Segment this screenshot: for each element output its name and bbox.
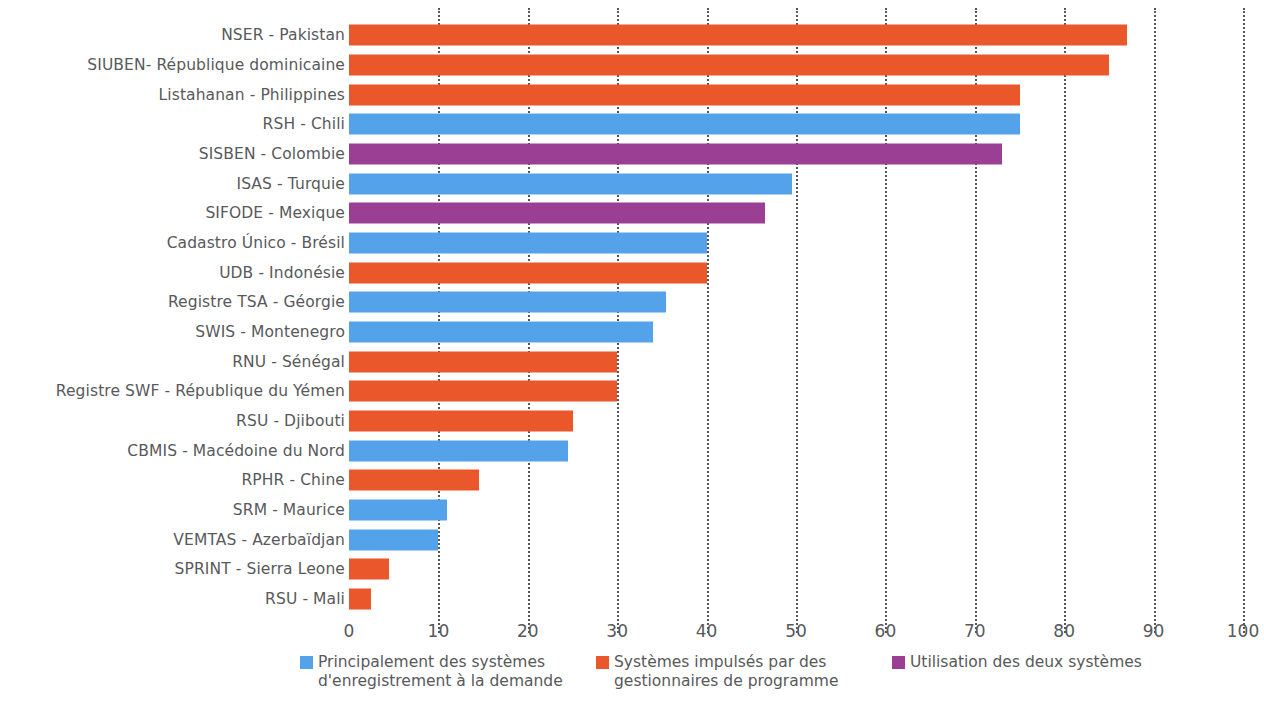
bar-category-label: SIUBEN- République dominicaine xyxy=(87,56,345,74)
bar-row: ISAS - Turquie xyxy=(0,169,1264,199)
x-tick-label: 20 xyxy=(517,621,539,641)
bar xyxy=(349,559,389,580)
legend-swatch-icon xyxy=(300,656,313,669)
legend-label: Principalement des systèmes d'enregistre… xyxy=(318,653,578,691)
bar-category-label: RPHR - Chine xyxy=(241,471,345,489)
legend-swatch-icon xyxy=(596,656,609,669)
bar xyxy=(349,114,1020,135)
bar xyxy=(349,262,707,283)
plot-area: NSER - PakistanSIUBEN- République domini… xyxy=(0,0,1264,640)
bar xyxy=(349,25,1127,46)
bar-category-label: VEMTAS - Azerbaïdjan xyxy=(173,531,345,549)
bar-category-label: RSH - Chili xyxy=(263,115,345,133)
bar-category-label: RSU - Mali xyxy=(265,590,345,608)
x-tick-label: 70 xyxy=(964,621,986,641)
horizontal-bar-chart: NSER - PakistanSIUBEN- République domini… xyxy=(0,0,1264,703)
bar-category-label: RNU - Sénégal xyxy=(232,353,345,371)
legend-item-on-demand[interactable]: Principalement des systèmes d'enregistre… xyxy=(300,653,578,691)
chart-legend: Principalement des systèmes d'enregistre… xyxy=(300,653,1264,703)
bar xyxy=(349,381,617,402)
bar-row: RSH - Chili xyxy=(0,110,1264,140)
bar xyxy=(349,499,447,520)
x-tick-label: 30 xyxy=(606,621,628,641)
bar-row: SRM - Maurice xyxy=(0,495,1264,525)
bar xyxy=(349,233,707,254)
bar xyxy=(349,321,653,342)
bar-row: Registre TSA - Géorgie xyxy=(0,288,1264,318)
bar-row: Registre SWF - République du Yémen xyxy=(0,376,1264,406)
bar-category-label: SPRINT - Sierra Leone xyxy=(175,560,345,578)
bar xyxy=(349,55,1109,76)
legend-item-program-driven[interactable]: Systèmes impulsés par des gestionnaires … xyxy=(596,653,874,691)
bar xyxy=(349,84,1020,105)
bar-row: RSU - Djibouti xyxy=(0,406,1264,436)
bar-row: RNU - Sénégal xyxy=(0,347,1264,377)
legend-label: Utilisation des deux systèmes xyxy=(910,653,1142,672)
bar-row: VEMTAS - Azerbaïdjan xyxy=(0,525,1264,555)
bar-category-label: ISAS - Turquie xyxy=(236,175,345,193)
bar xyxy=(349,144,1002,165)
bar-row: Cadastro Único - Brésil xyxy=(0,228,1264,258)
bar xyxy=(349,410,573,431)
bar-category-label: SRM - Maurice xyxy=(233,501,345,519)
bar-row: RSU - Mali xyxy=(0,584,1264,614)
x-tick-label: 10 xyxy=(428,621,450,641)
bar-category-label: SIFODE - Mexique xyxy=(205,204,345,222)
bar xyxy=(349,351,617,372)
x-tick-label: 0 xyxy=(344,621,355,641)
bar-row: SIUBEN- République dominicaine xyxy=(0,50,1264,80)
x-tick-label: 80 xyxy=(1053,621,1075,641)
x-tick-label: 100 xyxy=(1227,621,1259,641)
bar xyxy=(349,173,792,194)
legend-swatch-icon xyxy=(892,656,905,669)
bar-category-label: Registre SWF - République du Yémen xyxy=(56,382,345,400)
bar-category-label: Listahanan - Philippines xyxy=(159,86,345,104)
bar-row: SISBEN - Colombie xyxy=(0,139,1264,169)
bar-row: CBMIS - Macédoine du Nord xyxy=(0,436,1264,466)
bar xyxy=(349,529,438,550)
bar-category-label: UDB - Indonésie xyxy=(219,264,345,282)
x-axis: 0102030405060708090100 xyxy=(0,621,1264,649)
bar-row: SIFODE - Mexique xyxy=(0,199,1264,229)
legend-label: Systèmes impulsés par des gestionnaires … xyxy=(614,653,874,691)
bar-row: Listahanan - Philippines xyxy=(0,80,1264,110)
bar-category-label: SWIS - Montenegro xyxy=(195,323,345,341)
bar-row: UDB - Indonésie xyxy=(0,258,1264,288)
bar-category-label: Cadastro Único - Brésil xyxy=(167,234,345,252)
bar-category-label: Registre TSA - Géorgie xyxy=(168,293,345,311)
bar-category-label: RSU - Djibouti xyxy=(236,412,345,430)
bar xyxy=(349,203,765,224)
x-tick-label: 50 xyxy=(785,621,807,641)
bar-category-label: NSER - Pakistan xyxy=(221,26,345,44)
bar-row: RPHR - Chine xyxy=(0,465,1264,495)
bar-category-label: SISBEN - Colombie xyxy=(199,145,345,163)
x-tick-label: 90 xyxy=(1143,621,1165,641)
bar-row: SPRINT - Sierra Leone xyxy=(0,554,1264,584)
bar xyxy=(349,440,568,461)
x-tick-label: 40 xyxy=(696,621,718,641)
x-tick-label: 60 xyxy=(875,621,897,641)
bar xyxy=(349,292,666,313)
bar-row: SWIS - Montenegro xyxy=(0,317,1264,347)
bar xyxy=(349,470,479,491)
legend-item-both[interactable]: Utilisation des deux systèmes xyxy=(892,653,1142,672)
bar xyxy=(349,588,371,609)
bar-row: NSER - Pakistan xyxy=(0,21,1264,51)
bar-category-label: CBMIS - Macédoine du Nord xyxy=(127,442,345,460)
